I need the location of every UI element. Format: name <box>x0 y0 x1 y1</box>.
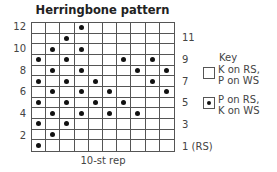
row-label-6: 6 <box>12 86 26 97</box>
row-label-7: 7 <box>182 76 188 87</box>
chart-cell <box>117 44 131 55</box>
chart-cell <box>131 119 145 130</box>
chart-cell <box>117 87 131 98</box>
chart-cell <box>146 140 160 151</box>
chart-cell <box>131 55 145 66</box>
chart-cell <box>60 140 74 151</box>
chart-cell <box>131 44 145 55</box>
dot-square-icon <box>203 97 215 109</box>
chart-cell <box>75 66 89 77</box>
chart-cell <box>131 23 145 34</box>
chart-cell <box>103 130 117 141</box>
row-label-4: 4 <box>12 108 26 119</box>
chart-cell <box>131 108 145 119</box>
purl-dot-icon <box>50 89 55 94</box>
chart-cell <box>32 76 46 87</box>
row-label-5: 5 <box>182 97 188 108</box>
chart-cell <box>160 34 174 45</box>
chart-cell <box>160 23 174 34</box>
chart-cell <box>131 140 145 151</box>
chart-cell <box>46 108 60 119</box>
chart-cell <box>89 55 103 66</box>
chart-cell <box>146 23 160 34</box>
row-label-11: 11 <box>182 32 195 43</box>
purl-dot-icon <box>79 47 84 52</box>
purl-dot-icon <box>36 121 41 126</box>
chart-cell <box>32 130 46 141</box>
chart-cell <box>46 34 60 45</box>
chart-cell <box>103 108 117 119</box>
chart-cell <box>117 55 131 66</box>
knitting-chart-grid <box>31 22 175 152</box>
purl-dot-icon <box>36 100 41 105</box>
chart-cell <box>60 98 74 109</box>
empty-square-icon <box>203 67 215 79</box>
chart-cell <box>46 55 60 66</box>
row-label-8: 8 <box>12 65 26 76</box>
chart-cell <box>89 130 103 141</box>
chart-cell <box>32 34 46 45</box>
chart-cell <box>146 130 160 141</box>
key-item-knit: K on RS, P on WS <box>203 64 260 86</box>
row-label-12: 12 <box>12 21 26 32</box>
chart-cell <box>46 119 60 130</box>
purl-dot-icon <box>93 100 98 105</box>
chart-cell <box>160 44 174 55</box>
chart-cell <box>103 55 117 66</box>
chart-title: Herringbone pattern <box>0 3 205 17</box>
purl-dot-icon <box>121 100 126 105</box>
chart-cell <box>160 76 174 87</box>
chart-cell <box>75 130 89 141</box>
chart-cell <box>103 98 117 109</box>
chart-cell <box>103 119 117 130</box>
chart-cell <box>117 119 131 130</box>
chart-cell <box>89 108 103 119</box>
chart-cell <box>75 87 89 98</box>
row-label-3: 3 <box>182 119 188 130</box>
chart-cell <box>146 76 160 87</box>
chart-cell <box>160 130 174 141</box>
purl-dot-icon <box>164 68 169 73</box>
purl-dot-icon <box>121 57 126 62</box>
purl-dot-icon <box>50 47 55 52</box>
chart-cell <box>89 98 103 109</box>
chart-cell <box>146 34 160 45</box>
row-label-10: 10 <box>12 43 26 54</box>
chart-cell <box>75 76 89 87</box>
purl-dot-icon <box>64 36 69 41</box>
chart-cell <box>32 140 46 151</box>
chart-cell <box>117 66 131 77</box>
row-label-1: 1 (RS) <box>182 141 213 152</box>
chart-cell <box>60 23 74 34</box>
chart-cell <box>160 98 174 109</box>
chart-cell <box>131 66 145 77</box>
chart-cell <box>75 98 89 109</box>
purl-dot-icon <box>135 111 140 116</box>
purl-dot-icon <box>64 100 69 105</box>
purl-dot-icon <box>50 132 55 137</box>
chart-cell <box>103 23 117 34</box>
chart-cell <box>46 130 60 141</box>
chart-cell <box>89 119 103 130</box>
chart-cell <box>60 108 74 119</box>
chart-cell <box>117 23 131 34</box>
purl-dot-icon <box>79 111 84 116</box>
chart-cell <box>160 108 174 119</box>
dot-icon <box>207 101 211 105</box>
chart-cell <box>117 76 131 87</box>
chart-cell <box>117 34 131 45</box>
chart-cell <box>75 34 89 45</box>
chart-cell <box>103 140 117 151</box>
chart-cell <box>60 44 74 55</box>
chart-cell <box>103 34 117 45</box>
chart-cell <box>60 87 74 98</box>
row-label-2: 2 <box>12 130 26 141</box>
chart-cell <box>89 87 103 98</box>
key-item-purl: P on RS, K on WS <box>203 94 260 116</box>
purl-dot-icon <box>64 79 69 84</box>
key-label-knit: K on RS, P on WS <box>218 64 260 86</box>
chart-cell <box>117 108 131 119</box>
chart-cell <box>75 108 89 119</box>
purl-dot-icon <box>150 57 155 62</box>
chart-cell <box>131 76 145 87</box>
